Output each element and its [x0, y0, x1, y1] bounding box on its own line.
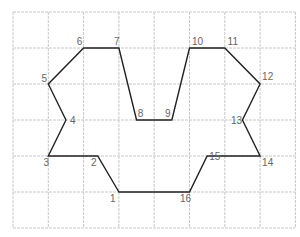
vertex-label-4: 4 — [70, 115, 76, 126]
vertex-label-15: 15 — [209, 151, 221, 162]
polygon-grid-diagram: 12345678910111213141516 — [0, 0, 300, 237]
vertex-label-1: 1 — [110, 193, 116, 204]
vertex-label-11: 11 — [228, 36, 239, 47]
vertex-label-10: 10 — [192, 36, 204, 47]
vertex-label-2: 2 — [91, 157, 97, 168]
vertex-label-6: 6 — [77, 36, 83, 47]
vertex-label-5: 5 — [42, 73, 48, 84]
vertex-label-3: 3 — [44, 157, 50, 168]
vertex-label-14: 14 — [262, 157, 274, 168]
vertex-label-16: 16 — [180, 193, 192, 204]
vertex-label-8: 8 — [138, 108, 144, 119]
vertex-label-9: 9 — [165, 108, 171, 119]
vertex-label-12: 12 — [262, 71, 274, 82]
vertex-label-13: 13 — [231, 115, 243, 126]
vertex-label-7: 7 — [114, 36, 120, 47]
